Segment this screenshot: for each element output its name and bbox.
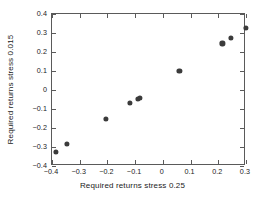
y-axis-tick [52,33,56,34]
data-points-layer [52,14,244,164]
y-axis-tick [240,128,244,129]
y-axis-tick-label: 0.4 [37,9,47,18]
y-axis-tick [240,90,244,91]
scatter-plot-figure: Required returns stress 0.015 −0.4−0.3−0… [0,0,265,202]
data-point [103,116,108,121]
y-axis-tick-label: 0 [43,85,47,94]
x-axis-tick [246,14,247,18]
x-axis-tick [218,14,219,18]
x-axis-tick-label: −0.3 [71,167,86,176]
data-point [177,68,182,73]
x-axis-tick [135,160,136,164]
x-axis-tick [191,160,192,164]
x-axis-label: Required returns stress 0.25 [0,181,265,190]
y-axis-tick [52,147,56,148]
data-point [138,96,143,101]
x-axis-tick [52,160,53,164]
y-axis-tick [52,109,56,110]
y-axis-tick [240,33,244,34]
data-point [54,149,59,154]
y-axis-tick-label: −0.2 [32,123,47,132]
x-axis-tick [80,14,81,18]
x-axis-tick-label: 0.3 [240,167,250,176]
x-axis-tick-label: 0.1 [184,167,194,176]
y-axis-tick [52,52,56,53]
x-axis-tick [163,160,164,164]
y-axis-label-container: Required returns stress 0.015 [4,0,18,178]
x-axis-tick [191,14,192,18]
data-point [243,25,248,30]
x-axis-tick [135,14,136,18]
data-point [65,142,70,147]
y-axis-tick [240,71,244,72]
x-axis-tick [80,160,81,164]
y-axis-tick [240,14,244,15]
y-axis-tick [52,90,56,91]
x-axis-tick-label: −0.4 [44,167,59,176]
data-point [127,101,132,106]
x-axis-tick-label: 0 [160,167,164,176]
y-axis-tick [52,71,56,72]
x-axis-tick [163,14,164,18]
y-axis-tick [240,52,244,53]
y-axis-tick-label: 0.2 [37,47,47,56]
x-axis-tick-label: −0.1 [127,167,142,176]
plot-area [51,13,245,165]
x-axis-tick-label: 0.2 [212,167,222,176]
data-point [220,41,225,46]
x-axis-tick-label: −0.2 [99,167,114,176]
y-axis-tick-label: 0.1 [37,66,47,75]
y-axis-tick-label: 0.3 [37,28,47,37]
x-axis-tick [107,160,108,164]
data-point [228,35,233,40]
x-axis-tick [107,14,108,18]
y-axis-tick-label: −0.3 [32,142,47,151]
y-axis-tick [240,147,244,148]
y-axis-label: Required returns stress 0.015 [7,34,16,144]
y-axis-tick [52,14,56,15]
y-axis-tick [240,109,244,110]
y-axis-tick-label: −0.1 [32,104,47,113]
x-axis-tick [218,160,219,164]
y-axis-tick [52,128,56,129]
x-axis-tick [246,160,247,164]
